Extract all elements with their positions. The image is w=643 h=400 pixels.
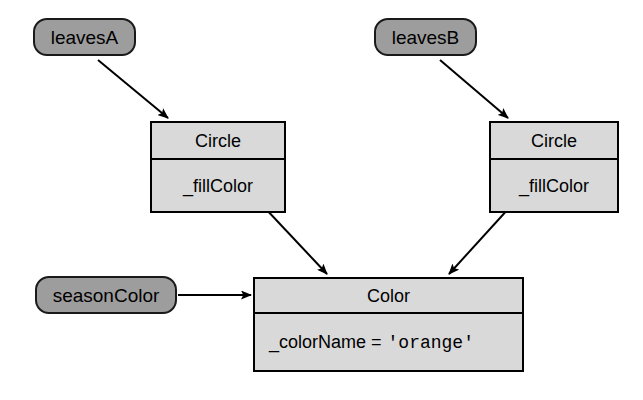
field-value-colorname: 'orange': [388, 334, 474, 352]
variable-label-leavesA: leavesA: [51, 28, 119, 47]
object-box-circle-b[interactable]: Circle _fillColor: [489, 121, 619, 213]
object-box-circle-a[interactable]: Circle _fillColor: [150, 121, 286, 213]
edge-circleA-to-color: [264, 207, 327, 274]
object-title-circle-b: Circle: [491, 123, 617, 160]
object-title-circle-a: Circle: [152, 123, 284, 160]
variable-label-leavesB: leavesB: [392, 28, 460, 47]
field-name-fillcolor-b: _fillColor: [519, 177, 589, 195]
field-name-colorname: _colorName =: [269, 333, 382, 351]
edge-leavesA-to-circleA: [98, 60, 168, 118]
diagram-canvas: leavesA leavesB seasonColor Circle _fill…: [0, 0, 643, 400]
variable-node-leavesB[interactable]: leavesB: [374, 18, 477, 56]
object-body-circle-a: _fillColor: [152, 160, 284, 211]
edge-circleB-to-color: [449, 207, 510, 274]
edge-leavesB-to-circleB: [440, 60, 508, 118]
variable-node-seasonColor[interactable]: seasonColor: [35, 276, 177, 314]
field-colorname: _colorName = 'orange': [269, 333, 474, 352]
object-body-circle-b: _fillColor: [491, 160, 617, 211]
object-title-color: Color: [255, 279, 522, 314]
field-name-fillcolor-a: _fillColor: [183, 177, 253, 195]
variable-node-leavesA[interactable]: leavesA: [33, 18, 136, 56]
object-box-color[interactable]: Color _colorName = 'orange': [253, 277, 524, 372]
variable-label-seasonColor: seasonColor: [53, 286, 160, 305]
object-body-color: _colorName = 'orange': [255, 314, 522, 370]
